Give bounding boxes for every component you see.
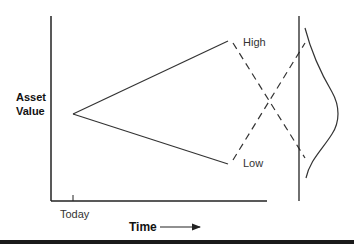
y-axis-label-line1: Asset [16, 91, 46, 103]
today-label: Today [60, 208, 90, 220]
high-label: High [243, 36, 266, 48]
y-axis-label-line2: Value [16, 105, 45, 117]
distribution-curve [305, 28, 338, 178]
x-axis-label: Time [129, 220, 157, 234]
low-label: Low [243, 157, 263, 169]
asset-value-diagram: High Low Asset Value Today Time [0, 0, 354, 246]
dashed-high-to-low-line [233, 43, 305, 158]
high-scenario-line [73, 41, 228, 114]
bottom-bar [0, 240, 354, 244]
low-scenario-line [73, 114, 228, 164]
dashed-low-to-high-line [233, 43, 305, 160]
